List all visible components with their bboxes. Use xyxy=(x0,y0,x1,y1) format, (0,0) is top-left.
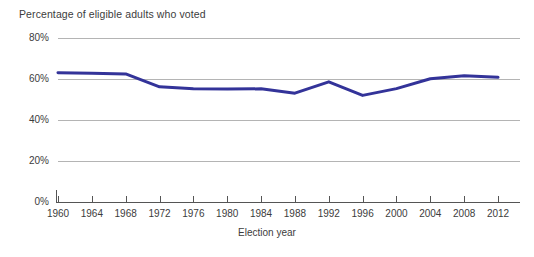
axis-lines-group xyxy=(56,190,520,203)
gridlines-group xyxy=(58,39,520,162)
x-axis-title: Election year xyxy=(0,227,534,238)
y-tick-label: 0% xyxy=(13,196,49,207)
y-tick-label: 20% xyxy=(13,155,49,166)
y-tick-label: 60% xyxy=(13,73,49,84)
y-tick-label: 80% xyxy=(13,32,49,43)
chart-container: Percentage of eligible adults who voted … xyxy=(0,0,534,257)
x-tick-marks-group xyxy=(59,196,499,202)
y-tick-label: 40% xyxy=(13,114,49,125)
data-series-line xyxy=(58,73,498,96)
x-tick-label: 2012 xyxy=(478,208,518,219)
